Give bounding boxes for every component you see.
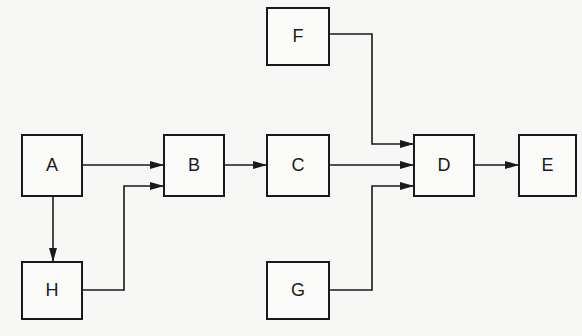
- node-e: E: [518, 134, 577, 197]
- edge-f-to-d: [330, 34, 413, 144]
- node-label: A: [46, 155, 58, 176]
- edge-g-to-d: [330, 186, 413, 290]
- node-d: D: [413, 134, 475, 197]
- node-g: G: [266, 261, 330, 320]
- edge-h-to-b: [83, 186, 163, 290]
- node-c: C: [266, 134, 330, 197]
- node-label: C: [292, 155, 305, 176]
- node-label: E: [541, 155, 553, 176]
- node-h: H: [21, 261, 83, 320]
- node-label: H: [46, 280, 59, 301]
- node-label: G: [291, 280, 305, 301]
- node-label: B: [188, 155, 200, 176]
- node-label: F: [293, 26, 304, 47]
- node-a: A: [21, 134, 83, 197]
- node-f: F: [266, 7, 330, 66]
- node-b: B: [163, 134, 225, 197]
- node-label: D: [438, 155, 451, 176]
